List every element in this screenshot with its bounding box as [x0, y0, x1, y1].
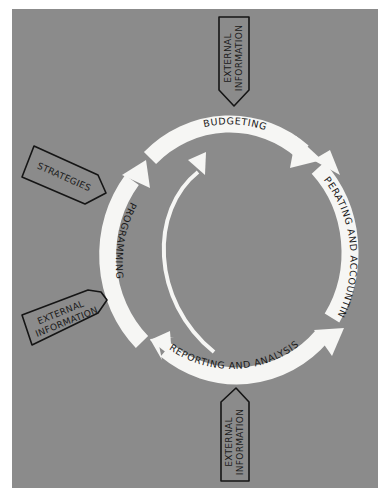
external-information-bottom-box: EXTERNAL INFORMATION	[221, 388, 249, 481]
box-label-line2: INFORMATION	[235, 409, 245, 475]
box-label-line1: EXTERNAL	[224, 417, 234, 466]
diagram-background	[12, 9, 378, 488]
planning-cycle-diagram: BUDGETING OPERATING AND ACCOUNTING REPOR…	[0, 0, 389, 498]
box-label-line1: EXTERNAL	[223, 33, 233, 82]
external-information-top-box: EXTERNAL INFORMATION	[219, 17, 249, 106]
box-label-line2: INFORMATION	[234, 25, 244, 91]
